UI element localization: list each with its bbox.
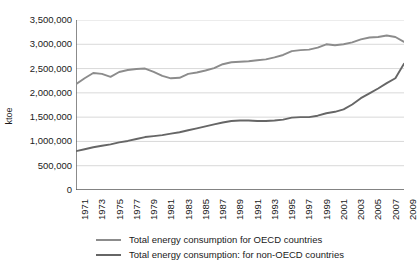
series-line-non-oecd [76,64,404,151]
x-tick-label: 1991 [253,199,263,220]
y-tick-label: 0 [2,185,72,195]
x-tick-label: 1973 [97,199,107,220]
x-tick-label: 1995 [287,199,297,220]
x-tick-label: 2003 [356,199,366,220]
axis-lines [76,20,404,190]
legend-item[interactable]: Total energy consumption: for non-OECD c… [96,247,396,262]
x-tick-label: 2009 [408,199,418,220]
legend-line-swatch [96,254,121,256]
x-tick-label: 2005 [373,199,383,220]
x-tick-label: 1999 [322,199,332,220]
y-tick-label: 1,500,000 [2,112,72,122]
x-tick-label: 1993 [270,199,280,220]
energy-consumption-line-chart: ktoe 0500,0001,000,0001,500,0002,000,000… [0,0,420,271]
legend-item-label: Total energy consumption for OECD countr… [129,234,322,245]
chart-legend: Total energy consumption for OECD countr… [96,232,396,262]
y-tick-label: 3,500,000 [2,15,72,25]
plot-area [76,20,404,190]
plot-svg [76,20,404,190]
y-tick-label: 1,000,000 [2,136,72,146]
x-tick-label: 1985 [201,199,211,220]
x-tick-label: 2007 [391,199,401,220]
legend-item[interactable]: Total energy consumption for OECD countr… [96,232,396,247]
x-tick-label: 1997 [304,199,314,220]
x-axis-tick-labels: 1971197319751977197919811983198519871989… [76,192,408,236]
y-tick-label: 3,000,000 [2,39,72,49]
x-tick-label: 1981 [166,199,176,220]
x-tick-label: 1987 [218,199,228,220]
legend-item-label: Total energy consumption: for non-OECD c… [129,249,344,260]
x-tick-label: 1977 [132,199,142,220]
y-axis-tick-labels: 0500,0001,000,0001,500,0002,000,0002,500… [0,0,72,200]
x-tick-label: 1975 [115,199,125,220]
x-tick-label: 1983 [184,199,194,220]
x-tick-label: 1971 [80,199,90,220]
y-tick-label: 2,000,000 [2,88,72,98]
x-tick-label: 1979 [149,199,159,220]
x-tick-label: 1989 [235,199,245,220]
legend-line-swatch [96,239,121,241]
y-tick-label: 2,500,000 [2,64,72,74]
x-tick-label: 2001 [339,199,349,220]
y-tick-label: 500,000 [2,161,72,171]
series-line-oecd [76,36,404,85]
